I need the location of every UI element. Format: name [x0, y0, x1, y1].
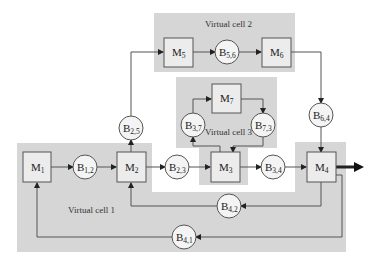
machine-m6: M6 — [262, 38, 291, 67]
buffer-b12: B1,2 — [73, 155, 97, 179]
virtual-cell-3-label: Virtual cell 3 — [205, 127, 252, 137]
buffer-b23: B2,3 — [165, 155, 189, 179]
buffer-b56: B5,6 — [215, 40, 239, 64]
virtual-cell-diagram: Virtual cell 1 Virtual cell 2 Virtual ce… — [0, 0, 373, 265]
machine-m5: M5 — [164, 38, 193, 67]
buffer-b37: B3,7 — [181, 113, 205, 137]
buffer-b34: B3,4 — [261, 155, 285, 179]
virtual-cell-2-label: Virtual cell 2 — [205, 19, 252, 29]
buffer-b73: B7,3 — [251, 113, 275, 137]
buffer-b42: B4,2 — [217, 194, 241, 218]
machine-m1: M1 — [23, 152, 51, 182]
virtual-cell-1-label: Virtual cell 1 — [68, 205, 115, 215]
buffer-b64: B6,4 — [309, 103, 333, 127]
machine-m2: M2 — [117, 152, 146, 182]
machine-m4: M4 — [307, 152, 336, 182]
machine-m7: M7 — [212, 84, 241, 113]
buffer-b41: B4,1 — [172, 225, 196, 249]
buffer-b25: B2,5 — [119, 116, 143, 140]
machine-m3: M3 — [211, 152, 240, 182]
